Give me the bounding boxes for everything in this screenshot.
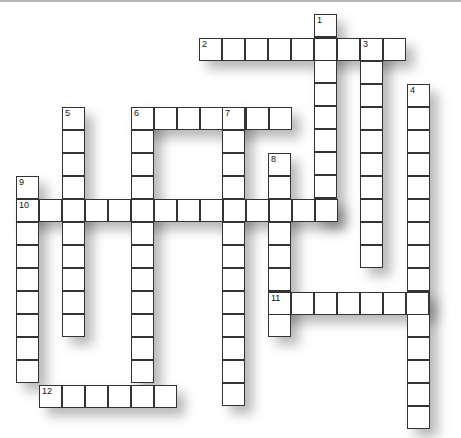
crossword-cell[interactable] (291, 292, 314, 315)
crossword-cell[interactable] (360, 222, 383, 245)
crossword-cell[interactable] (407, 314, 430, 337)
crossword-cell[interactable] (108, 385, 131, 408)
crossword-cell[interactable] (222, 222, 245, 245)
crossword-cell[interactable] (222, 383, 245, 406)
crossword-cell[interactable] (16, 291, 39, 314)
crossword-cell[interactable] (407, 153, 430, 176)
crossword-cell[interactable]: 3 (360, 38, 383, 61)
crossword-cell[interactable] (223, 199, 246, 222)
crossword-cell[interactable] (314, 83, 337, 106)
crossword-cell[interactable] (131, 245, 154, 268)
crossword-cell[interactable] (268, 38, 291, 61)
crossword-cell[interactable] (62, 153, 85, 176)
crossword-cell[interactable] (62, 314, 85, 337)
crossword-cell[interactable] (108, 199, 131, 222)
crossword-cell[interactable] (407, 130, 430, 153)
crossword-cell[interactable] (268, 176, 291, 199)
crossword-cell[interactable] (383, 292, 406, 315)
crossword-cell[interactable]: 4 (407, 84, 430, 107)
crossword-cell[interactable] (131, 314, 154, 337)
crossword-cell[interactable] (16, 337, 39, 360)
crossword-cell[interactable] (222, 153, 245, 176)
crossword-cell[interactable] (200, 107, 223, 130)
crossword-cell[interactable] (131, 222, 154, 245)
crossword-cell[interactable] (246, 107, 269, 130)
crossword-cell[interactable] (62, 245, 85, 268)
crossword-cell[interactable] (16, 245, 39, 268)
crossword-cell[interactable] (360, 245, 383, 268)
crossword-cell[interactable] (16, 268, 39, 291)
crossword-cell[interactable] (407, 360, 430, 383)
crossword-cell[interactable] (62, 130, 85, 153)
crossword-cell[interactable] (200, 199, 223, 222)
crossword-cell[interactable] (407, 107, 430, 130)
crossword-cell[interactable] (62, 385, 85, 408)
crossword-cell[interactable] (154, 199, 177, 222)
crossword-cell[interactable] (314, 175, 337, 198)
crossword-cell[interactable] (222, 130, 245, 153)
crossword-cell[interactable]: 5 (62, 107, 85, 130)
crossword-cell[interactable] (177, 107, 200, 130)
crossword-cell[interactable]: 7 (222, 107, 245, 130)
crossword-cell[interactable] (62, 176, 85, 199)
crossword-cell[interactable] (222, 38, 245, 61)
crossword-cell[interactable] (360, 292, 383, 315)
crossword-cell[interactable] (337, 292, 360, 315)
crossword-cell[interactable] (268, 314, 291, 337)
crossword-cell[interactable] (314, 292, 337, 315)
crossword-cell[interactable] (407, 383, 430, 406)
crossword-cell[interactable] (62, 222, 85, 245)
crossword-cell[interactable] (314, 106, 337, 129)
crossword-cell[interactable] (407, 199, 430, 222)
crossword-cell[interactable]: 11 (268, 292, 291, 315)
crossword-cell[interactable] (268, 245, 291, 268)
crossword-cell[interactable]: 6 (131, 107, 154, 130)
crossword-cell[interactable]: 8 (268, 153, 291, 176)
crossword-cell[interactable] (177, 199, 200, 222)
crossword-cell[interactable] (268, 222, 291, 245)
crossword-cell[interactable] (222, 337, 245, 360)
crossword-cell[interactable]: 10 (16, 199, 39, 222)
crossword-cell[interactable] (222, 360, 245, 383)
crossword-cell[interactable] (407, 176, 430, 199)
crossword-cell[interactable] (246, 199, 269, 222)
crossword-cell[interactable] (360, 107, 383, 130)
crossword-cell[interactable] (360, 130, 383, 153)
crossword-cell[interactable] (131, 291, 154, 314)
crossword-cell[interactable] (314, 129, 337, 152)
crossword-cell[interactable] (131, 268, 154, 291)
crossword-cell[interactable] (222, 176, 245, 199)
crossword-cell[interactable] (360, 199, 383, 222)
crossword-cell[interactable] (222, 314, 245, 337)
crossword-cell[interactable] (360, 84, 383, 107)
crossword-cell[interactable]: 12 (39, 385, 62, 408)
crossword-cell[interactable] (245, 38, 268, 61)
crossword-cell[interactable] (407, 245, 430, 268)
crossword-cell[interactable] (85, 199, 108, 222)
crossword-cell[interactable] (407, 337, 430, 360)
crossword-cell[interactable] (407, 268, 430, 291)
crossword-cell[interactable] (407, 222, 430, 245)
crossword-cell[interactable] (222, 291, 245, 314)
crossword-cell[interactable] (131, 360, 154, 383)
crossword-cell[interactable] (131, 385, 154, 408)
crossword-cell[interactable] (315, 199, 338, 222)
crossword-cell[interactable] (268, 268, 291, 291)
crossword-cell[interactable] (131, 337, 154, 360)
crossword-cell[interactable] (291, 38, 314, 61)
crossword-cell[interactable] (337, 38, 360, 61)
crossword-cell[interactable] (269, 107, 292, 130)
crossword-cell[interactable] (39, 199, 62, 222)
crossword-cell[interactable] (131, 199, 154, 222)
crossword-cell[interactable] (85, 385, 108, 408)
crossword-cell[interactable] (360, 176, 383, 199)
crossword-cell[interactable] (360, 61, 383, 84)
crossword-cell[interactable] (16, 314, 39, 337)
crossword-cell[interactable] (406, 292, 429, 315)
crossword-cell[interactable] (131, 153, 154, 176)
crossword-cell[interactable]: 9 (16, 176, 39, 199)
crossword-cell[interactable] (360, 153, 383, 176)
crossword-cell[interactable] (154, 385, 177, 408)
crossword-cell[interactable] (62, 268, 85, 291)
crossword-cell[interactable] (314, 38, 337, 61)
